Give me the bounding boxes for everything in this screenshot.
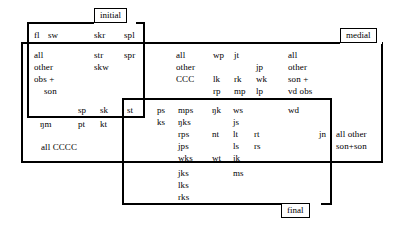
medial-final-jk: jk	[233, 153, 240, 165]
medial-final-wks: wks	[178, 153, 193, 165]
medial-center-jt: jt	[234, 50, 239, 62]
medial-label-tab: medial	[340, 28, 377, 43]
initial-medial-summary-other: other	[34, 62, 53, 74]
medial-final-wt: wt	[212, 153, 221, 165]
medial-final-rps: rps	[178, 129, 189, 141]
medial-final-rt: rt	[254, 129, 260, 141]
medial-final-lt: lt	[233, 129, 238, 141]
final-only-jks: jks	[178, 168, 189, 180]
initial-medial-str: str	[94, 50, 103, 62]
medial-final-rs: rs	[254, 141, 261, 153]
medial-right-summary-vd-obs: vd obs	[288, 86, 312, 98]
final-label-tab: final	[281, 203, 310, 218]
medial-final-ks: ks	[157, 117, 165, 129]
medial-final-ps: ps	[157, 105, 165, 117]
medial-only-all-cccc: all CCCC	[41, 142, 77, 154]
final-only-rks: rks	[178, 192, 189, 204]
initial-medial-summary-all: all	[34, 50, 43, 62]
initial-medial-skw: skw	[94, 62, 109, 74]
final-only-ms: ms	[233, 168, 244, 180]
medial-only-pt: pt	[78, 119, 85, 131]
medial-only-kt: kt	[100, 119, 107, 131]
medial-final-jps: jps	[178, 141, 189, 153]
medial-final-js: js	[233, 117, 239, 129]
medial-final-ngks: ŋks	[178, 117, 191, 129]
medial-center-lk: lk	[213, 74, 220, 86]
medial-final-wd: wd	[288, 105, 299, 117]
initial-medial-sk: sk	[100, 105, 108, 117]
medial-far-right-son-son: son+son	[336, 141, 367, 153]
initial-medial-spr: spr	[124, 50, 135, 62]
initial-medial-final-st: st	[127, 105, 133, 117]
medial-center-summary-ccc: CCC	[176, 74, 194, 86]
initial-medial-sp: sp	[78, 105, 86, 117]
consonant-cluster-venn-figure: initial medial final fl sw skr spl all o…	[0, 0, 401, 233]
initial-label-tab: initial	[94, 8, 127, 23]
initial-only-fl: fl	[34, 30, 40, 42]
medial-center-rp: rp	[213, 86, 221, 98]
initial-only-sw: sw	[48, 30, 58, 42]
medial-center-summary-other: other	[176, 62, 195, 74]
initial-medial-summary-son: son	[44, 86, 57, 98]
medial-far-right-all-other: all other	[336, 129, 367, 141]
medial-center-rk: rk	[234, 74, 242, 86]
medial-only-ngm: ŋm	[40, 119, 52, 131]
medial-right-summary-son: son +	[288, 74, 308, 86]
medial-center-summary-all: all	[176, 50, 185, 62]
medial-final-nt: nt	[212, 129, 219, 141]
final-only-lks: lks	[178, 180, 189, 192]
initial-only-spl: spl	[124, 30, 135, 42]
medial-center-lp: lp	[256, 86, 263, 98]
initial-only-skr: skr	[94, 30, 105, 42]
initial-medial-summary-obs: obs +	[34, 74, 54, 86]
medial-center-wp: wp	[213, 50, 224, 62]
final-domain-rectangle	[122, 98, 332, 205]
medial-right-summary-all: all	[288, 50, 297, 62]
medial-final-mps: mps	[178, 105, 193, 117]
medial-center-jp: jp	[256, 62, 263, 74]
medial-final-ls: ls	[233, 141, 239, 153]
medial-final-ngk: ŋk	[212, 105, 221, 117]
medial-center-mp: mp	[234, 86, 246, 98]
medial-final-ws: ws	[233, 105, 243, 117]
medial-right-summary-other: other	[288, 62, 307, 74]
medial-final-jn: jn	[319, 129, 326, 141]
medial-center-wk: wk	[256, 74, 267, 86]
